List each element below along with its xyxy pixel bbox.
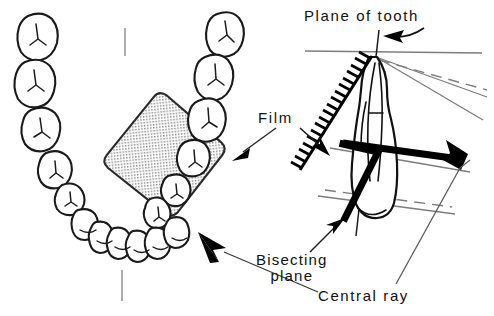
label-bisecting-plane-line2: plane [256, 268, 328, 284]
label-bisecting-plane-line1: Bisecting [256, 252, 328, 268]
film-leader-left [232, 128, 276, 161]
dental-bisecting-angle-figure: Plane of tooth Film Bisecting plane Cent… [0, 0, 494, 316]
teeth-anterior [72, 209, 190, 262]
label-central-ray: Central ray [318, 288, 409, 304]
teeth-left-quadrant [14, 14, 84, 216]
label-bisecting-plane: Bisecting plane [256, 252, 328, 284]
label-film: Film [258, 110, 293, 126]
construction-rays [318, 57, 487, 214]
plane-of-tooth-leader [383, 28, 424, 43]
figure-drawing [0, 0, 494, 316]
central-ray-leader [396, 168, 460, 284]
horizontal-reference-line [305, 51, 482, 53]
bisecting-plane-leader [310, 218, 345, 252]
bisecting-angle-panel [291, 28, 487, 284]
label-plane-of-tooth: Plane of tooth [304, 8, 419, 24]
